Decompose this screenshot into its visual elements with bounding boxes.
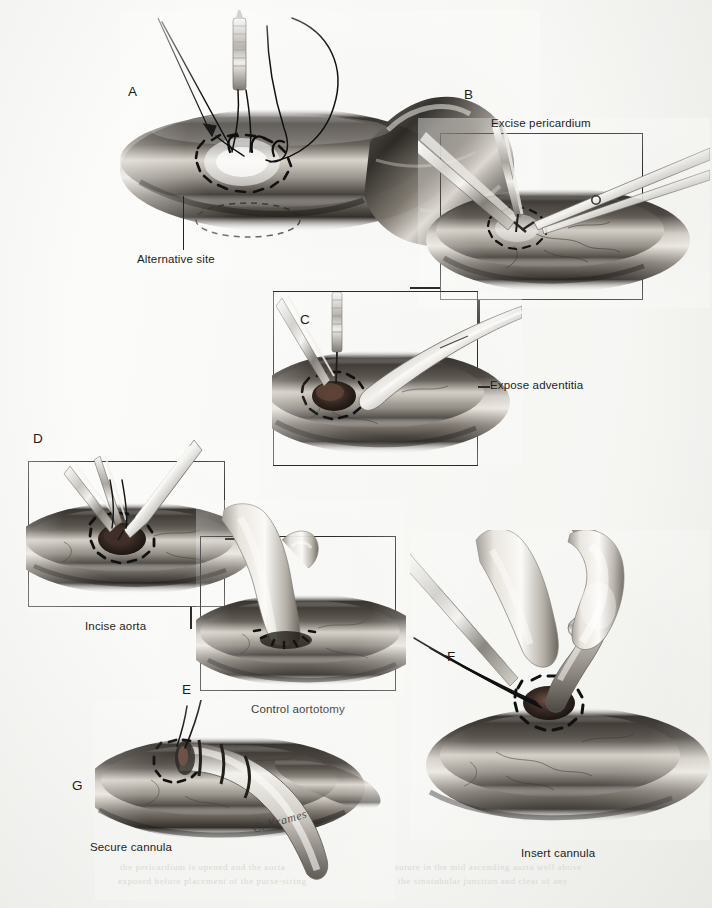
panel-a-leader-line: [183, 196, 184, 250]
bleed-through-line-3: suture in the mid ascending aorta well a…: [395, 862, 582, 872]
panel-b-illustration: [418, 118, 710, 308]
panel-f-illustration: [410, 530, 710, 840]
panel-letter-f: F: [447, 650, 456, 664]
panel-f-caption: Insert cannula: [521, 847, 595, 860]
bleed-through-line-2: exposed before placement of the purse-st…: [118, 876, 307, 886]
panel-letter-d: D: [33, 432, 43, 446]
panel-letter-b: B: [464, 88, 473, 102]
panel-c-caption: Expose adventitia: [490, 379, 583, 392]
panel-b-caption: Excise pericardium: [491, 117, 591, 130]
panel-d-caption: Incise aorta: [85, 620, 146, 633]
connector-c-right-stub: [478, 386, 490, 388]
panel-g-caption: Secure cannula: [90, 841, 172, 854]
panel-letter-e: E: [182, 683, 191, 697]
panel-letter-c: C: [300, 313, 310, 327]
connector-d-to-e: [190, 607, 192, 629]
panel-letter-a: A: [128, 85, 137, 99]
panel-e-illustration: [196, 500, 406, 695]
bleed-through-line-1: the pericardium is opened and the aorta: [120, 862, 285, 872]
panel-a-caption: Alternative site: [137, 253, 215, 266]
panel-letter-g: G: [72, 779, 83, 793]
figure-page: A Alternative site: [0, 0, 712, 908]
connector-b-left-stub: [410, 287, 440, 289]
bleed-through-line-4: the sinotubular junction and clear of an…: [398, 876, 568, 886]
